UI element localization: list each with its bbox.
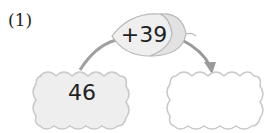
operator-text: +39 xyxy=(118,22,170,47)
start-value: 46 xyxy=(35,80,129,105)
answer-input[interactable] xyxy=(172,74,264,118)
connector-line xyxy=(80,40,116,70)
